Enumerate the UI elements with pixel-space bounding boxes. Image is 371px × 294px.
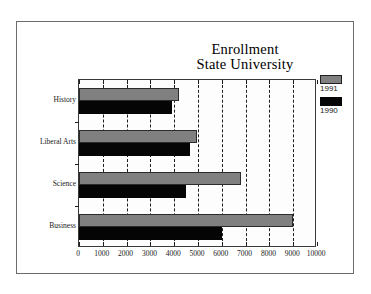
- axis-tick: [246, 80, 247, 84]
- bar-1990-science: [79, 185, 186, 198]
- bar-1991-business: [79, 214, 293, 227]
- axis-tick: [317, 80, 318, 84]
- legend-label-1991: 1991: [320, 84, 354, 94]
- y-axis-label-science: Science: [53, 179, 76, 188]
- axis-tick: [150, 80, 151, 84]
- gridline: [293, 80, 294, 246]
- legend-entry-1990: 1990: [320, 97, 354, 116]
- x-axis-tick-labels: 0100020003000400050006000700080009000100…: [78, 249, 316, 263]
- axis-tick: [150, 242, 151, 246]
- legend-label-1990: 1990: [320, 106, 354, 116]
- y-axis-category-labels: HistoryLiberal ArtsScienceBusiness: [0, 79, 76, 247]
- x-tick-label: 5000: [190, 249, 205, 258]
- legend-swatch-1990: [320, 97, 342, 106]
- axis-tick: [246, 242, 247, 246]
- axis-tick: [222, 80, 223, 84]
- axis-tick: [79, 80, 80, 84]
- chart-legend: 19911990: [320, 75, 354, 123]
- axis-tick: [127, 242, 128, 246]
- axis-tick: [222, 242, 223, 246]
- x-tick-label: 3000: [142, 249, 157, 258]
- axis-tick: [174, 242, 175, 246]
- axis-tick: [198, 242, 199, 246]
- y-axis-label-liberal-arts: Liberal Arts: [40, 137, 76, 146]
- y-axis-label-history: History: [54, 95, 77, 104]
- chart-figure: Enrollment State University HistoryLiber…: [0, 0, 371, 294]
- x-tick-label: 0: [76, 249, 80, 258]
- bar-1990-liberal-arts: [79, 143, 190, 156]
- chart-title-line1: Enrollment: [211, 41, 278, 57]
- legend-entry-1991: 1991: [320, 75, 354, 94]
- axis-tick: [174, 80, 175, 84]
- plot-area: [78, 79, 316, 247]
- x-tick-label: 6000: [213, 249, 228, 258]
- bar-1991-history: [79, 88, 179, 101]
- x-tick-label: 7000: [237, 249, 252, 258]
- axis-tick: [293, 80, 294, 84]
- axis-tick: [198, 80, 199, 84]
- bar-1990-history: [79, 101, 172, 114]
- bar-1991-science: [79, 172, 241, 185]
- bar-1991-liberal-arts: [79, 130, 197, 143]
- x-tick-label: 2000: [118, 249, 133, 258]
- axis-tick: [293, 242, 294, 246]
- axis-tick: [103, 242, 104, 246]
- x-tick-label: 8000: [261, 249, 276, 258]
- x-tick-label: 1000: [94, 249, 109, 258]
- axis-tick: [127, 80, 128, 84]
- x-tick-label: 9000: [285, 249, 300, 258]
- axis-tick: [103, 80, 104, 84]
- axis-tick: [269, 80, 270, 84]
- axis-tick: [79, 242, 80, 246]
- axis-tick: [269, 242, 270, 246]
- legend-swatch-1991: [320, 75, 342, 84]
- y-axis-label-business: Business: [49, 221, 76, 230]
- x-tick-label: 10000: [307, 249, 326, 258]
- x-tick-label: 4000: [166, 249, 181, 258]
- axis-tick: [317, 242, 318, 246]
- bar-1990-business: [79, 227, 222, 240]
- chart-title-line2: State University: [150, 57, 340, 72]
- chart-title: Enrollment State University: [150, 42, 340, 72]
